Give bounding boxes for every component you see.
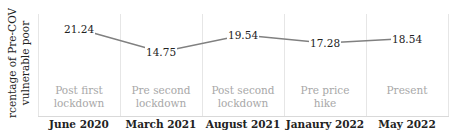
phase-label: Present xyxy=(366,84,448,97)
x-tick-label: Janaury 2022 xyxy=(284,118,366,130)
phase-label: Pre pricehike xyxy=(284,84,366,110)
y-axis-label-line2: vulnerable poor xyxy=(19,20,31,106)
y-axis-label-line1: Percentage of Pre-COVID xyxy=(6,8,18,118)
x-tick-label: March 2021 xyxy=(120,118,202,130)
x-tick-label: August 2021 xyxy=(202,118,284,130)
data-point-label: 17.28 xyxy=(309,37,341,49)
data-point-label: 18.54 xyxy=(391,33,423,45)
data-point-label: 21.24 xyxy=(63,23,95,35)
y-axis-label: Percentage of Pre-COVID vulnerable poor xyxy=(0,8,36,118)
x-tick-label: June 2020 xyxy=(38,118,120,130)
data-point-label: 19.54 xyxy=(227,29,259,41)
phase-label: Post firstlockdown xyxy=(38,84,120,110)
x-tick-label: May 2022 xyxy=(366,118,448,130)
data-point-label: 14.75 xyxy=(145,46,177,58)
phase-label: Post secondlockdown xyxy=(202,84,284,110)
phase-label: Pre secondlockdown xyxy=(120,84,202,110)
chart-canvas xyxy=(0,0,465,137)
line-chart: Post firstlockdownPre secondlockdownPost… xyxy=(0,0,465,137)
